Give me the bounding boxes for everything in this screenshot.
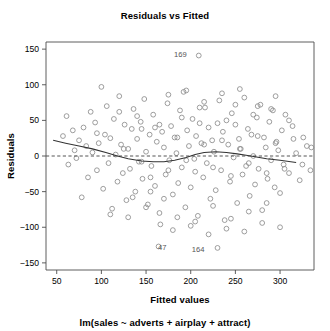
- x-axis-title: Fitted values: [150, 294, 209, 305]
- y-tick-label: 100: [25, 80, 40, 90]
- x-tick-label: 250: [228, 276, 243, 286]
- x-tick-label: 50: [52, 276, 62, 286]
- x-tick-label: 300: [273, 276, 288, 286]
- x-tick-label: 150: [139, 276, 154, 286]
- chart-subtitle: lm(sales ~ adverts + airplay + attract): [79, 317, 250, 328]
- y-tick-label: 0: [34, 151, 39, 161]
- y-tick-label: −50: [24, 187, 39, 197]
- y-tick-label: 50: [29, 115, 39, 125]
- y-tick-label: −100: [20, 222, 40, 232]
- residuals-vs-fitted-plot: Residuals vs Fitted 150100500−50−100−150…: [0, 0, 330, 331]
- y-axis-title: Residuals: [5, 133, 16, 179]
- outlier-label: 164: [192, 245, 205, 254]
- y-tick-label: 150: [25, 44, 40, 54]
- chart-title: Residuals vs Fitted: [121, 10, 210, 21]
- x-tick-label: 100: [94, 276, 109, 286]
- chart-canvas: Residuals vs Fitted 150100500−50−100−150…: [0, 0, 330, 331]
- y-tick-label: −150: [20, 258, 40, 268]
- outlier-label: 47: [158, 243, 166, 252]
- x-tick-label: 200: [184, 276, 199, 286]
- outlier-label: 169: [174, 50, 187, 59]
